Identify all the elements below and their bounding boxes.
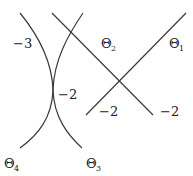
theta3-sub: 3 [96,164,101,173]
label-theta1: Θ 1 [169,36,184,53]
theta2-sub: 2 [111,44,116,53]
diagram-canvas: −3 −2 −2 −2 Θ 2 Θ 1 Θ 4 Θ 3 [0,0,193,176]
line-ascending [86,13,186,115]
label-line-right-minus2: −2 [160,104,179,119]
label-center-minus2: −2 [58,87,77,102]
curve-right-to-theta4 [20,13,83,148]
label-theta2: Θ 2 [101,36,116,53]
label-theta4: Θ 4 [4,156,19,173]
theta1-sub: 1 [179,44,184,53]
label-line-left-minus2: −2 [99,104,118,119]
label-minus3: −3 [13,36,32,51]
label-theta3: Θ 3 [86,156,101,173]
theta4-sub: 4 [14,164,19,173]
